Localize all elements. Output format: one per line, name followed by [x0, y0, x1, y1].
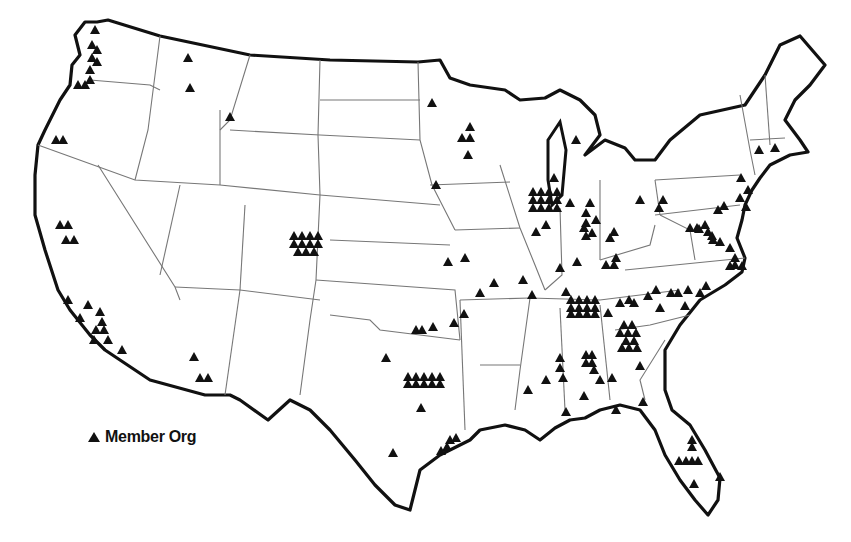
legend-label: Member Org [105, 428, 196, 446]
legend: Member Org [88, 428, 196, 446]
triangle-icon [88, 432, 100, 442]
us-map [0, 0, 851, 542]
